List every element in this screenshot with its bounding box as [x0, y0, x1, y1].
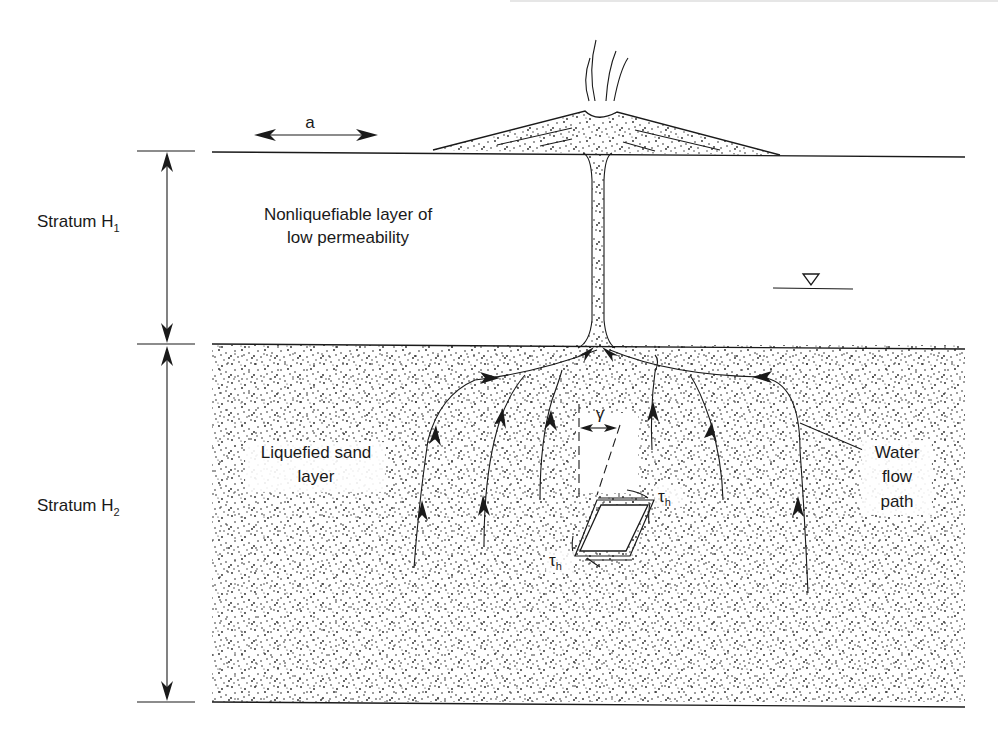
dimension-a-label: a: [305, 113, 315, 132]
sand-boil-diagram: a Stratum H1 Stratum H2 Nonliquefiable l…: [0, 0, 998, 748]
upper-layer-label: Nonliquefiable layer of low permeability: [264, 205, 432, 247]
gamma-label: γ: [596, 404, 605, 423]
svg-text:Liquefied sand: Liquefied sand: [261, 443, 372, 462]
stratum-h2-dimension: Stratum H2: [37, 346, 195, 702]
liquefied-sand-layer: [212, 344, 965, 707]
water-table-icon: [773, 274, 853, 289]
sand-boil: [433, 40, 780, 348]
svg-text:low permeability: low permeability: [287, 228, 409, 247]
svg-text:Nonliquefiable layer of: Nonliquefiable layer of: [264, 205, 432, 224]
liquefied-layer-label: Liquefied sand layer: [245, 442, 385, 492]
stratum-h1-label: Stratum H1: [37, 212, 120, 234]
svg-text:Water: Water: [875, 443, 920, 462]
stratum-h2-label: Stratum H2: [37, 496, 120, 518]
water-flow-path-label: Water flow path: [862, 440, 932, 515]
svg-text:flow: flow: [882, 467, 913, 486]
svg-text:path: path: [880, 492, 913, 511]
stratum-h1-dimension: Stratum H1: [37, 151, 195, 344]
svg-text:layer: layer: [298, 467, 335, 486]
dimension-a: a: [254, 113, 378, 141]
